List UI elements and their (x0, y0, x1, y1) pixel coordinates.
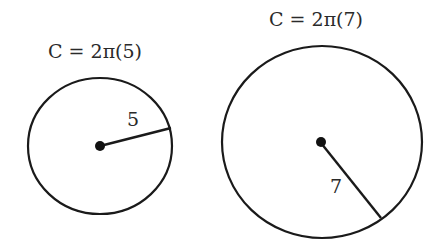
small-circle-radius-label: 5 (127, 108, 139, 130)
large-circle-group (222, 46, 422, 238)
circles-diagram (0, 0, 435, 252)
small-circle-group (28, 78, 172, 214)
small-circle-formula: C = 2π(5) (48, 40, 142, 62)
large-circle-formula: C = 2π(7) (269, 8, 363, 30)
large-circle-center-dot (316, 137, 326, 147)
small-circle-center-dot (95, 141, 105, 151)
small-circle-radius (100, 128, 171, 146)
large-circle-radius-label: 7 (330, 175, 342, 197)
